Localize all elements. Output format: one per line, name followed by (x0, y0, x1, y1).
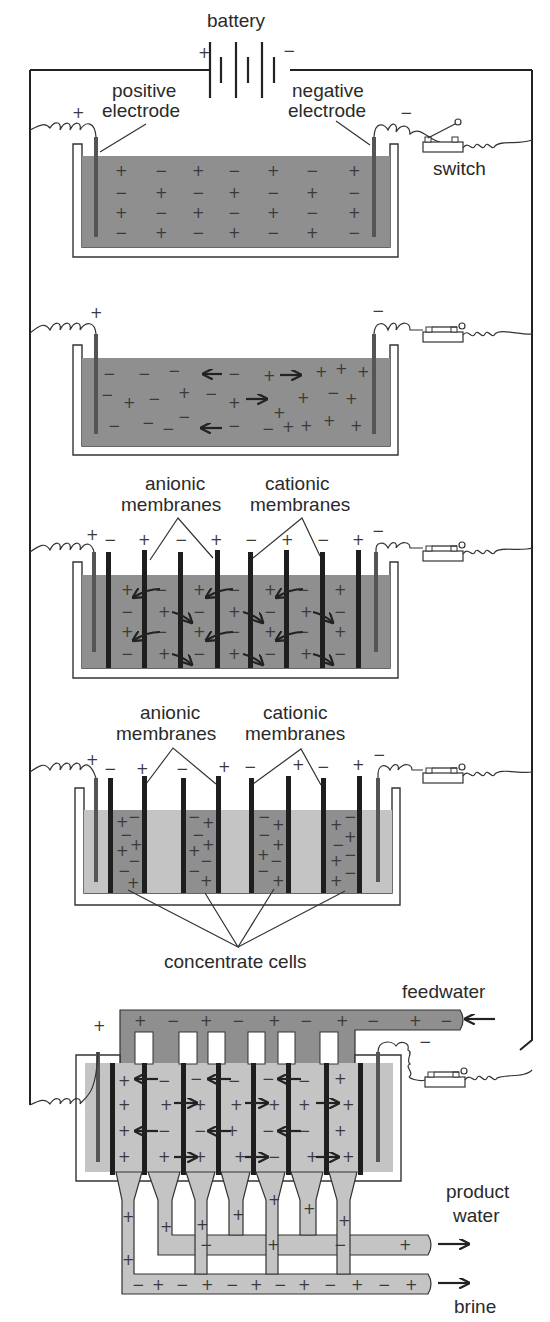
electrode-plus-sign: + (93, 1017, 106, 1035)
svg-text:−: − (121, 645, 134, 663)
svg-text:−: − (142, 414, 155, 432)
svg-text:+: + (121, 581, 134, 599)
negative-electrode-label-2: electrode (288, 100, 366, 121)
svg-text:−: − (306, 204, 319, 222)
svg-text:+: + (228, 184, 241, 202)
svg-text:+: + (334, 623, 347, 641)
svg-text:+: + (263, 367, 276, 385)
svg-text:−: − (274, 1276, 287, 1294)
svg-text:−: − (200, 1236, 213, 1254)
svg-text:−: − (188, 862, 201, 880)
svg-text:+: + (264, 623, 277, 641)
svg-text:+: + (228, 603, 241, 621)
svg-text:+: + (192, 204, 205, 222)
svg-text:−: − (176, 760, 189, 778)
switch-icon (423, 119, 532, 152)
panel-3: anionic membranes cationic membranes (30, 473, 532, 678)
svg-text:−: − (101, 386, 114, 404)
svg-text:−: − (262, 420, 275, 438)
svg-text:+: + (298, 1096, 311, 1114)
svg-text:+: + (118, 1072, 131, 1090)
svg-text:+: + (298, 1276, 311, 1294)
svg-text:−: − (334, 1236, 347, 1254)
membrane-polarity-signs: + − + − + − + − + − (86, 746, 386, 778)
anionic-label-2: membranes (116, 723, 216, 744)
svg-text:+: + (350, 417, 363, 435)
svg-text:−: − (258, 808, 271, 826)
membrane-polarity-signs: + − + − + − + − + − (86, 522, 385, 549)
svg-text:−: − (317, 531, 330, 549)
cationic-label-2: membranes (250, 494, 350, 515)
svg-text:+: + (228, 394, 241, 412)
svg-text:+: + (188, 842, 201, 860)
panel-2: + − −−−−++++ −+−+−++−++ −−−−−−++++ (30, 302, 532, 455)
svg-text:−: − (327, 384, 340, 402)
svg-text:+: + (300, 645, 313, 663)
svg-text:+: + (352, 531, 365, 549)
svg-text:−: − (228, 162, 241, 180)
svg-text:+: + (86, 526, 99, 544)
feedwater-label: feedwater (402, 981, 486, 1002)
svg-text:+: + (292, 756, 305, 774)
svg-text:−: − (200, 852, 213, 870)
svg-text:−: − (244, 758, 257, 776)
svg-text:+: + (272, 872, 285, 890)
svg-text:+: + (268, 1096, 281, 1114)
svg-text:−: − (228, 1072, 241, 1090)
svg-text:−: − (115, 184, 128, 202)
svg-text:−: − (267, 224, 280, 242)
svg-text:−: − (108, 417, 121, 435)
svg-text:−: − (348, 184, 361, 202)
svg-text:+: + (134, 1012, 147, 1030)
svg-text:+: + (300, 603, 313, 621)
svg-text:+: + (281, 531, 294, 549)
svg-text:−: − (306, 162, 319, 180)
svg-text:−: − (232, 1012, 245, 1030)
svg-text:−: − (138, 365, 151, 383)
panel-5: feedwater (30, 981, 532, 1317)
svg-text:+: + (118, 1148, 131, 1166)
svg-text:−: − (373, 746, 386, 764)
svg-text:+: + (272, 816, 285, 834)
electrodialysis-diagram: battery + − switch positive electrode ne… (0, 0, 550, 1322)
electrode-minus-sign: − (419, 1033, 432, 1051)
svg-text:+: + (267, 162, 280, 180)
svg-text:+: + (303, 1200, 316, 1218)
svg-text:+: + (348, 162, 361, 180)
svg-text:+: + (297, 389, 310, 407)
svg-text:+: + (264, 581, 277, 599)
svg-text:+: + (282, 418, 295, 436)
svg-text:+: + (86, 751, 99, 769)
electrode-plus-sign: + (72, 104, 85, 122)
svg-text:+: + (193, 581, 206, 599)
svg-text:+: + (200, 1012, 213, 1030)
svg-text:+: + (158, 603, 171, 621)
svg-text:−: − (226, 1276, 239, 1294)
svg-text:+: + (330, 852, 343, 870)
svg-text:−: − (228, 417, 241, 435)
svg-text:−: − (193, 603, 206, 621)
svg-text:−: − (298, 1072, 311, 1090)
svg-text:+: + (122, 1251, 135, 1269)
svg-text:+: + (405, 1276, 418, 1294)
svg-text:+: + (228, 645, 241, 663)
svg-text:−: − (264, 645, 277, 663)
battery-label: battery (207, 10, 266, 31)
svg-text:+: + (345, 390, 358, 408)
cationic-label-1: cationic (265, 473, 329, 494)
svg-text:+: + (323, 412, 336, 430)
svg-text:−: − (168, 362, 181, 380)
svg-text:−: − (257, 862, 270, 880)
product-water-label-2: water (452, 1205, 500, 1226)
svg-text:−: − (155, 204, 168, 222)
svg-text:+: + (357, 363, 370, 381)
svg-text:−: − (348, 224, 361, 242)
svg-text:−: − (176, 1276, 189, 1294)
electrode-minus-sign: − (400, 104, 413, 122)
svg-text:−: − (103, 365, 116, 383)
svg-text:−: − (188, 808, 201, 826)
svg-text:−: − (192, 184, 205, 202)
svg-text:−: − (115, 224, 128, 242)
svg-text:+: + (230, 1096, 243, 1114)
svg-text:−: − (148, 390, 161, 408)
